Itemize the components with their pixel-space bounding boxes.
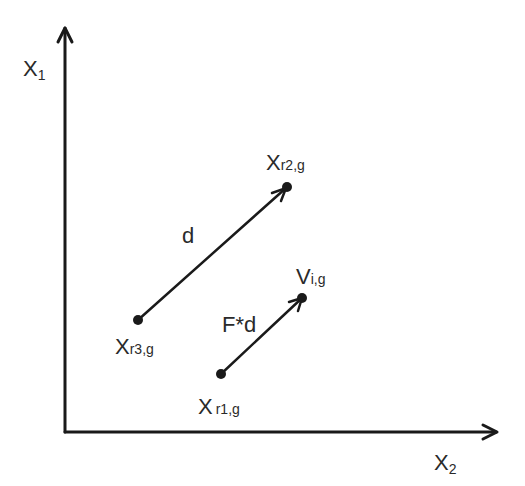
diagram-canvas (0, 0, 525, 486)
point-xr2 (282, 182, 292, 192)
point-xr3 (133, 315, 143, 325)
label-xr1: Xr1,g (198, 396, 240, 418)
x-axis-label: X2 (434, 452, 456, 476)
label-vi: Vi,g (296, 266, 325, 288)
label-xr2-main: X (266, 150, 281, 175)
label-vi-main: V (296, 264, 311, 289)
label-xr1-main: X (198, 394, 213, 419)
y-axis-label-sub: 1 (38, 67, 46, 83)
label-xr2: Xr2,g (266, 152, 305, 174)
label-xr2-sub: r2,g (281, 157, 305, 173)
label-vector-fd: F*d (222, 314, 256, 336)
x-axis-label-main: X (434, 450, 449, 475)
label-xr3: Xr3,g (115, 336, 154, 358)
label-xr3-sub: r3,g (130, 341, 154, 357)
point-vi (297, 293, 307, 303)
y-axis-label-main: X (23, 56, 38, 81)
y-axis-label: X1 (23, 58, 45, 82)
label-xr1-sub: r1,g (216, 401, 240, 417)
label-xr3-main: X (115, 334, 130, 359)
label-vector-d: d (182, 225, 194, 247)
point-xr1 (216, 369, 226, 379)
vector-d (138, 188, 286, 320)
label-vi-sub: i,g (311, 271, 326, 287)
x-axis-label-sub: 2 (449, 461, 457, 477)
